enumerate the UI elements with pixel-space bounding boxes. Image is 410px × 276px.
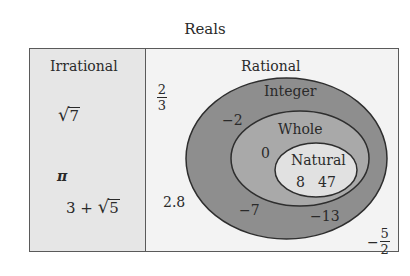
whole-label: Whole: [278, 122, 323, 136]
rational-example-neg-five-halves: − 5 2: [367, 227, 390, 256]
fraction: 5 2: [380, 227, 390, 256]
integer-label: Integer: [264, 84, 316, 98]
sqrt-7: √7: [58, 106, 80, 124]
natural-example: 8: [296, 175, 305, 189]
irrational-example-sqrt7: √7: [58, 106, 80, 124]
whole-example: 0: [261, 146, 270, 160]
natural-label: Natural: [291, 153, 346, 167]
venn-ellipses: [0, 0, 410, 276]
irrational-example-3-plus-sqrt5: 3 + √5: [66, 198, 120, 216]
rational-example-two-thirds: 2 3: [157, 81, 167, 112]
rational-example-2-8: 2.8: [163, 195, 185, 209]
integer-example: −2: [222, 113, 243, 127]
irrational-heading: Irrational: [50, 59, 118, 73]
sqrt-5: √5: [98, 198, 120, 216]
fraction: 2 3: [157, 83, 167, 112]
integer-example: −13: [310, 209, 340, 223]
irrational-example-pi: π: [57, 169, 67, 183]
rational-heading: Rational: [241, 59, 301, 73]
integer-example: −7: [239, 203, 260, 217]
natural-example: 47: [318, 175, 336, 189]
